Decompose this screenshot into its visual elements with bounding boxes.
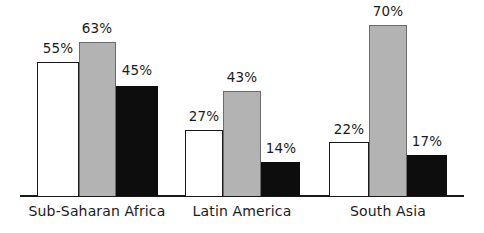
bar-white-2 — [329, 142, 369, 196]
bar-black-2 — [407, 155, 447, 196]
bar-white-0 — [37, 62, 79, 196]
value-label: 45% — [107, 64, 167, 78]
category-label-2: South Asia — [298, 203, 478, 219]
bar-white-1 — [185, 130, 223, 196]
value-label: 63% — [67, 22, 127, 36]
bar-black-0 — [116, 86, 158, 196]
value-label: 70% — [358, 5, 418, 19]
value-label: 43% — [212, 71, 272, 85]
plot-area: 55%63%45%Sub-Saharan Africa27%43%14%Lati… — [0, 0, 484, 233]
bar-black-1 — [261, 162, 300, 196]
value-label: 14% — [251, 142, 311, 156]
value-label: 17% — [397, 135, 457, 149]
bar-chart: 55%63%45%Sub-Saharan Africa27%43%14%Lati… — [0, 0, 484, 233]
bar-gray-2 — [369, 25, 407, 196]
